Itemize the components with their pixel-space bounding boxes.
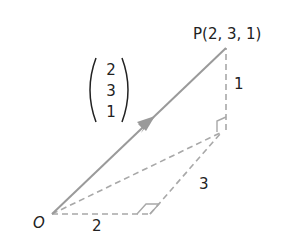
base-diagonal-dashed-line xyxy=(52,132,222,214)
z-leg-label: 1 xyxy=(234,77,244,92)
y-leg-dashed-line xyxy=(150,134,220,214)
column-vector: 2 3 1 xyxy=(88,56,134,126)
column-vector-entries: 2 3 1 xyxy=(88,60,134,123)
right-angle-marker-foot xyxy=(217,117,226,132)
y-leg-label: 3 xyxy=(199,177,209,192)
right-angle-marker-bottom xyxy=(137,204,159,214)
vector-entry-x: 2 xyxy=(88,60,134,81)
origin-label: O xyxy=(33,216,45,231)
point-p-label: P(2, 3, 1) xyxy=(193,27,261,42)
x-leg-label: 2 xyxy=(92,219,102,234)
vector-entry-y: 3 xyxy=(88,81,134,102)
vector-entry-z: 1 xyxy=(88,102,134,123)
arrowhead-fill xyxy=(137,116,155,131)
